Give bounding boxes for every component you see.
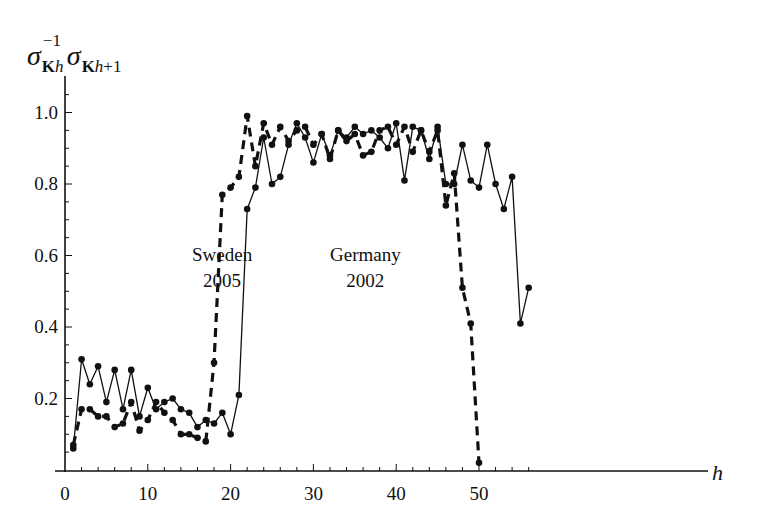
data-point-marker [260, 120, 267, 127]
data-point-marker [111, 424, 118, 431]
data-point-marker [401, 124, 408, 131]
y-tick-label: 0.8 [34, 173, 58, 194]
data-point-marker [145, 384, 152, 391]
series-sweden-2005 [70, 113, 482, 466]
data-point-marker [385, 124, 392, 131]
data-point-marker [153, 399, 160, 406]
data-point-marker [294, 127, 301, 134]
data-point-marker [211, 420, 218, 427]
data-point-marker [509, 174, 516, 181]
data-point-marker [169, 395, 176, 402]
data-point-marker [476, 184, 483, 191]
data-point-marker [103, 413, 110, 420]
data-point-marker [186, 410, 193, 417]
data-point-marker [95, 413, 102, 420]
data-point-marker [277, 124, 284, 131]
data-point-marker [476, 460, 483, 467]
data-point-marker [70, 442, 77, 449]
data-point-marker [87, 406, 94, 413]
data-point-marker [352, 131, 359, 138]
data-point-marker [120, 420, 127, 427]
data-point-marker [194, 424, 201, 431]
data-point-marker [376, 127, 383, 134]
data-point-marker [368, 149, 375, 156]
data-point-marker [393, 120, 400, 127]
data-point-marker [492, 181, 499, 188]
data-point-marker [78, 356, 85, 363]
data-point-marker [236, 392, 243, 399]
y-tick-label: 0.6 [34, 245, 58, 266]
line-chart: 010203040500.20.40.60.81.0h [0, 0, 769, 524]
data-point-marker [443, 202, 450, 209]
data-point-marker [426, 149, 433, 156]
sweden-line [73, 116, 479, 463]
data-point-marker [418, 127, 425, 134]
data-point-marker [236, 174, 243, 181]
data-point-marker [178, 406, 185, 413]
data-point-marker [244, 206, 251, 213]
data-point-marker [310, 159, 317, 166]
y-tick-label: 1.0 [34, 102, 58, 123]
data-point-marker [434, 127, 441, 134]
data-point-marker [252, 184, 259, 191]
x-tick-label: 20 [221, 483, 240, 504]
data-point-marker [459, 284, 466, 291]
data-point-marker [186, 431, 193, 438]
data-point-marker [128, 367, 135, 374]
data-point-marker [178, 431, 185, 438]
y-tick-label: 0.2 [34, 388, 58, 409]
data-point-marker [211, 359, 218, 366]
data-point-marker [484, 141, 491, 148]
data-point-marker [294, 120, 301, 127]
data-point-marker [368, 127, 375, 134]
data-point-marker [252, 163, 259, 170]
data-point-marker [327, 156, 334, 163]
data-point-marker [401, 177, 408, 184]
data-point-marker [161, 399, 168, 406]
data-point-marker [459, 141, 466, 148]
data-point-marker [120, 406, 127, 413]
data-point-marker [467, 177, 474, 184]
data-point-marker [385, 145, 392, 152]
data-point-marker [302, 124, 309, 131]
data-point-marker [227, 431, 234, 438]
data-point-marker [517, 320, 524, 327]
data-point-marker [219, 410, 226, 417]
data-point-marker [103, 399, 110, 406]
x-tick-label: 0 [60, 483, 70, 504]
data-point-marker [360, 131, 367, 138]
y-tick-label: 0.4 [34, 316, 58, 337]
data-point-marker [161, 410, 168, 417]
data-point-marker [136, 427, 143, 434]
series-group [70, 113, 532, 466]
data-point-marker [145, 417, 152, 424]
data-point-marker [78, 406, 85, 413]
data-point-marker [409, 149, 416, 156]
data-point-marker [318, 131, 325, 138]
data-point-marker [95, 363, 102, 370]
data-point-marker [269, 181, 276, 188]
x-tick-label: 10 [138, 483, 157, 504]
data-point-marker [285, 138, 292, 145]
x-tick-label: 40 [387, 483, 406, 504]
data-point-marker [467, 320, 474, 327]
data-point-marker [343, 138, 350, 145]
data-point-marker [169, 417, 176, 424]
data-point-marker [352, 124, 359, 131]
data-point-marker [111, 367, 118, 374]
x-tick-label: 30 [304, 483, 323, 504]
data-point-marker [310, 141, 317, 148]
data-point-marker [393, 141, 400, 148]
data-point-marker [277, 174, 284, 181]
data-point-marker [409, 124, 416, 131]
data-point-marker [335, 127, 342, 134]
data-point-marker [244, 113, 251, 120]
data-point-marker [360, 152, 367, 159]
data-point-marker [426, 156, 433, 163]
data-point-marker [451, 170, 458, 177]
data-point-marker [501, 206, 508, 213]
data-point-marker [525, 284, 532, 291]
data-point-marker [87, 381, 94, 388]
data-point-marker [202, 438, 209, 445]
x-axis-label: h [712, 460, 723, 485]
